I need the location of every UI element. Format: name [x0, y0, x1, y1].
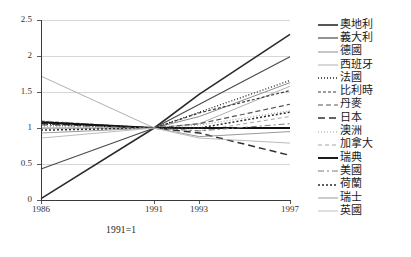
legend-item-label: 西班牙: [340, 59, 373, 71]
legend-line-sample: [318, 192, 338, 203]
legend-line-sample: [318, 152, 338, 163]
legend-item[interactable]: 荷蘭: [318, 178, 411, 191]
legend-item[interactable]: 義大利: [318, 31, 411, 44]
legend-item-label: 美國: [340, 165, 362, 177]
legend-item-label: 日本: [340, 112, 362, 124]
chart-root: 00.511.522.51986199119931997 1991=1 奧地利義…: [0, 0, 411, 257]
legend-item[interactable]: 英國: [318, 204, 411, 217]
legend-item-label: 瑞士: [340, 192, 362, 204]
legend-item[interactable]: 德國: [318, 45, 411, 58]
chart-legend: 奧地利義大利德國西班牙法國比利時丹麥日本澳洲加拿大瑞典美國荷蘭瑞士英國: [318, 18, 411, 217]
legend-item-label: 奧地利: [340, 19, 373, 31]
legend-item-label: 瑞典: [340, 152, 362, 164]
legend-item[interactable]: 奧地利: [318, 18, 411, 31]
legend-item[interactable]: 日本: [318, 111, 411, 124]
legend-line-sample: [318, 59, 338, 70]
legend-line-sample: [318, 99, 338, 110]
legend-line-sample: [318, 86, 338, 97]
legend-item-label: 法國: [340, 72, 362, 84]
legend-line-sample: [318, 72, 338, 83]
legend-line-sample: [318, 112, 338, 123]
legend-item[interactable]: 美國: [318, 164, 411, 177]
legend-line-sample: [318, 179, 338, 190]
legend-item-label: 義大利: [340, 32, 373, 44]
legend-line-sample: [318, 139, 338, 150]
legend-item[interactable]: 丹麥: [318, 98, 411, 111]
legend-line-sample: [318, 205, 338, 216]
legend-item-label: 德國: [340, 45, 362, 57]
legend-item[interactable]: 加拿大: [318, 138, 411, 151]
series-line: [41, 57, 290, 169]
legend-item-label: 英國: [340, 205, 362, 217]
series-line: [41, 83, 290, 128]
series-line: [41, 80, 290, 128]
legend-item[interactable]: 澳洲: [318, 124, 411, 137]
series-line: [41, 128, 290, 143]
legend-item-label: 比利時: [340, 85, 373, 97]
chart-annotation: 1991=1: [106, 225, 136, 235]
legend-item[interactable]: 比利時: [318, 84, 411, 97]
legend-line-sample: [318, 46, 338, 57]
legend-item-label: 澳洲: [340, 125, 362, 137]
legend-item-label: 加拿大: [340, 138, 373, 150]
series-line: [41, 34, 290, 198]
legend-line-sample: [318, 126, 338, 137]
legend-item[interactable]: 西班牙: [318, 58, 411, 71]
legend-item[interactable]: 瑞典: [318, 151, 411, 164]
legend-line-sample: [318, 165, 338, 176]
legend-line-sample: [318, 32, 338, 43]
x-axis-line: [41, 200, 291, 201]
legend-item[interactable]: 瑞士: [318, 191, 411, 204]
legend-item-label: 丹麥: [340, 98, 362, 110]
legend-item-label: 荷蘭: [340, 178, 362, 190]
y-axis-line: [41, 20, 42, 201]
legend-item[interactable]: 法國: [318, 71, 411, 84]
legend-line-sample: [318, 19, 338, 30]
